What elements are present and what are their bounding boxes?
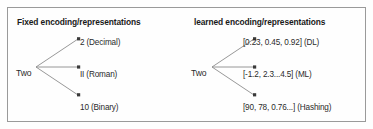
panel-fixed-root-label: Two bbox=[16, 68, 31, 78]
arrowhead-bottom-icon bbox=[253, 93, 256, 96]
leaf-learned-ml: [-1.2, 2.3...4.5] (ML) bbox=[243, 70, 312, 79]
arrow-line-top bbox=[36, 39, 78, 67]
figure-canvas: Fixed encoding/representations Two 2 (De… bbox=[0, 0, 373, 129]
panel-learned-root-label: Two bbox=[191, 68, 206, 78]
figure-frame: Fixed encoding/representations Two 2 (De… bbox=[7, 7, 366, 122]
leaf-learned-dl: [0.23, 0.45, 0.92] (DL) bbox=[243, 38, 319, 47]
panel-fixed-title: Fixed encoding/representations bbox=[17, 17, 141, 27]
panel-fixed-encoding: Fixed encoding/representations Two 2 (De… bbox=[8, 8, 188, 123]
arrowhead-bottom-icon bbox=[77, 93, 80, 96]
leaf-fixed-roman: II (Roman) bbox=[80, 70, 117, 79]
leaf-fixed-decimal: 2 (Decimal) bbox=[80, 38, 120, 47]
panel-learned-encoding: learned encoding/representations Two [0.… bbox=[188, 8, 367, 123]
leaf-fixed-binary: 10 (Binary) bbox=[80, 103, 118, 112]
arrowhead-middle-icon bbox=[77, 65, 80, 68]
panel-learned-title: learned encoding/representations bbox=[194, 17, 325, 27]
arrow-line-bottom bbox=[36, 67, 78, 95]
arrowhead-middle-icon bbox=[253, 65, 256, 68]
fan-arrows-fixed bbox=[34, 34, 86, 100]
leaf-learned-hashing: [90, 78, 0.76...] (Hashing) bbox=[243, 103, 331, 112]
